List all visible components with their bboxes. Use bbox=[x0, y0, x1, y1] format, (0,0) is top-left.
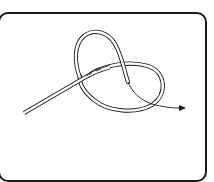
arrowhead-icon bbox=[179, 105, 186, 111]
rope-standing-part bbox=[24, 67, 110, 113]
knot-diagram bbox=[0, 0, 214, 165]
direction-arrow bbox=[128, 82, 186, 111]
rope-upper-loop bbox=[76, 32, 128, 82]
